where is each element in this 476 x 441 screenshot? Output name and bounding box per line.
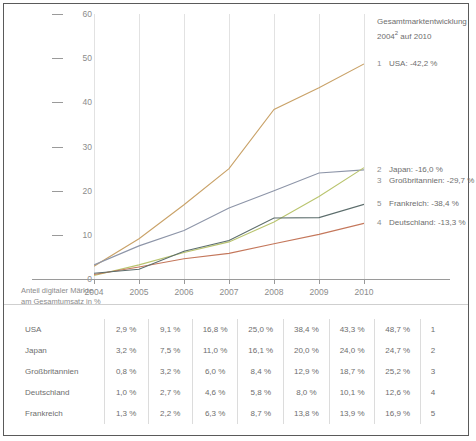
y-tick-mark <box>52 235 63 236</box>
y-tick-mark <box>52 191 63 192</box>
table-cell-value: 2,9 % <box>104 319 148 340</box>
data-table: USA2,9 %9,1 %16,8 %25,0 %38,4 %43,3 %48,… <box>21 319 445 424</box>
x-tick-mark <box>139 280 140 284</box>
x-tick-label: 2010 <box>340 287 388 297</box>
legend-entry-number: 4 <box>377 218 389 227</box>
line-chart: 6050403020100 20042005200620072008200920… <box>4 4 468 304</box>
gridline <box>364 14 365 279</box>
legend-entry-label: Japan: -16,0 % <box>389 165 443 174</box>
table-cell-value: 24,7 % <box>375 340 421 361</box>
series-line-frankreich <box>94 204 364 273</box>
table-cell-value: 13,9 % <box>329 403 375 424</box>
table-cell-value: 4,6 % <box>192 382 238 403</box>
chart-figure: 6050403020100 20042005200620072008200920… <box>3 3 469 436</box>
x-tick-mark <box>274 280 275 284</box>
table-row: Japan3,2 %7,5 %11,0 %16,1 %20,0 %24,0 %2… <box>21 340 445 361</box>
table-cell-value: 2,7 % <box>148 382 192 403</box>
table-cell-value: 3,2 % <box>104 340 148 361</box>
legend-title-line2: 20042 auf 2010 <box>377 28 473 42</box>
table-row: Deutschland1,0 %2,7 %4,6 %5,8 %8,0 %10,1… <box>21 382 445 403</box>
y-tick-mark <box>52 58 63 59</box>
series-line-japan <box>94 170 364 265</box>
table-cell-value: 48,7 % <box>375 319 421 340</box>
table-cell-country: USA <box>21 319 104 340</box>
x-tick-label: 2007 <box>205 287 253 297</box>
table-cell-value: 9,1 % <box>148 319 192 340</box>
chart-legend: Gesamtmarktentwicklung 20042 auf 2010 <box>377 16 473 54</box>
legend-entry: 2Japan: -16,0 % <box>377 165 476 174</box>
legend-entry-label: Großbritannien: -29,7 % <box>389 176 474 185</box>
table-cell-value: 38,4 % <box>284 319 330 340</box>
table-cell-value: 11,0 % <box>192 340 238 361</box>
table-cell-value: 25,2 % <box>375 361 421 382</box>
legend-entry-label: Deutschland: -13,3 % <box>389 218 466 227</box>
table-cell-country: Deutschland <box>21 382 104 403</box>
legend-entry-label: Frankreich: -38,4 % <box>389 199 459 208</box>
x-tick-label: 2006 <box>160 287 208 297</box>
table-cell-value: 20,0 % <box>284 340 330 361</box>
table-cell-value: 13,8 % <box>284 403 330 424</box>
table-cell-value: 5,8 % <box>238 382 284 403</box>
table-cell-value: 0,8 % <box>104 361 148 382</box>
table-cell-value: 6,3 % <box>192 403 238 424</box>
y-tick-mark <box>52 102 63 103</box>
table-cell-value: 3,2 % <box>148 361 192 382</box>
table-cell-value: 16,1 % <box>238 340 284 361</box>
table-cell-value: 16,8 % <box>192 319 238 340</box>
legend-entry: 3Großbritannien: -29,7 % <box>377 176 476 185</box>
table-cell-value: 12,9 % <box>284 361 330 382</box>
table-cell-value: 18,7 % <box>329 361 375 382</box>
legend-entry-number: 5 <box>377 199 389 208</box>
x-tick-mark <box>319 280 320 284</box>
legend-entry-number: 1 <box>377 59 389 68</box>
table-cell-rank: 3 <box>421 361 445 382</box>
table-row: USA2,9 %9,1 %16,8 %25,0 %38,4 %43,3 %48,… <box>21 319 445 340</box>
legend-title: Gesamtmarktentwicklung 20042 auf 2010 <box>377 16 473 42</box>
series-line-gro-britannien <box>94 168 364 276</box>
y-tick-mark <box>52 147 63 148</box>
table-cell-rank: 4 <box>421 382 445 403</box>
x-tick-label: 2005 <box>115 287 163 297</box>
table-row: Frankreich1,3 %2,2 %6,3 %8,7 %13,8 %13,9… <box>21 403 445 424</box>
table-cell-country: Japan <box>21 340 104 361</box>
table-cell-value: 8,7 % <box>238 403 284 424</box>
legend-entry: 4Deutschland: -13,3 % <box>377 218 476 227</box>
data-table-block: USA2,9 %9,1 %16,8 %25,0 %38,4 %43,3 %48,… <box>4 305 468 436</box>
table-cell-value: 8,0 % <box>284 382 330 403</box>
table-cell-value: 7,5 % <box>148 340 192 361</box>
legend-entry: 5Frankreich: -38,4 % <box>377 199 476 208</box>
legend-entry-number: 2 <box>377 165 389 174</box>
x-tick-label: 2009 <box>295 287 343 297</box>
table-cell-country: Frankreich <box>21 403 104 424</box>
series-line-usa <box>94 64 364 266</box>
table-cell-value: 12,6 % <box>375 382 421 403</box>
table-cell-value: 6,0 % <box>192 361 238 382</box>
table-row: Großbritannien0,8 %3,2 %6,0 %8,4 %12,9 %… <box>21 361 445 382</box>
legend-entry-number: 3 <box>377 176 389 185</box>
series-line-deutschland <box>94 223 364 274</box>
table-cell-value: 10,1 % <box>329 382 375 403</box>
series-lines <box>94 14 364 279</box>
table-cell-value: 24,0 % <box>329 340 375 361</box>
x-tick-mark <box>184 280 185 284</box>
legend-title-line1: Gesamtmarktentwicklung <box>377 16 473 28</box>
table-cell-value: 43,3 % <box>329 319 375 340</box>
table-cell-rank: 2 <box>421 340 445 361</box>
x-tick-mark <box>229 280 230 284</box>
table-cell-value: 2,2 % <box>148 403 192 424</box>
x-tick-mark <box>94 280 95 284</box>
x-tick-mark <box>364 280 365 284</box>
legend-entry-label: USA: -42,2 % <box>389 59 437 68</box>
y-tick-mark <box>52 14 63 15</box>
table-cell-value: 1,0 % <box>104 382 148 403</box>
table-cell-value: 8,4 % <box>238 361 284 382</box>
table-cell-value: 1,3 % <box>104 403 148 424</box>
y-axis-caption-line1: Anteil digitaler Märkte <box>21 285 101 296</box>
table-cell-rank: 1 <box>421 319 445 340</box>
x-tick-label: 2008 <box>250 287 298 297</box>
table-cell-rank: 5 <box>421 403 445 424</box>
table-cell-country: Großbritannien <box>21 361 104 382</box>
legend-entry: 1USA: -42,2 % <box>377 59 476 68</box>
table-cell-value: 16,9 % <box>375 403 421 424</box>
table-cell-value: 25,0 % <box>238 319 284 340</box>
